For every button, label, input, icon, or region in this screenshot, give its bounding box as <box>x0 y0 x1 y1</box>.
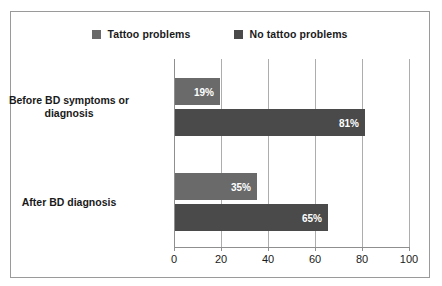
chart-frame: Tattoo problems No tattoo problems 19% 8… <box>10 11 430 278</box>
tick-mark-20 <box>221 247 222 251</box>
bar-after-tattoo-problems: 35% <box>175 173 257 200</box>
tick-mark-60 <box>315 247 316 251</box>
legend-swatch-icon <box>92 30 101 39</box>
x-tick-label-80: 80 <box>342 253 382 265</box>
category-label-before-line1: Before BD symptoms or <box>0 94 154 107</box>
category-label-before: Before BD symptoms or diagnosis <box>0 94 154 120</box>
legend-item-tattoo-problems: Tattoo problems <box>92 28 190 40</box>
bar-after-no-tattoo-problems: 65% <box>175 204 328 231</box>
bar-value-label: 81% <box>339 117 359 128</box>
category-label-before-line2: diagnosis <box>0 107 154 120</box>
category-label-after: After BD diagnosis <box>0 196 154 209</box>
chart-legend: Tattoo problems No tattoo problems <box>11 28 429 40</box>
plot-area: 19% 81% 35% 65% <box>174 59 409 247</box>
legend-label-no-tattoo-problems: No tattoo problems <box>249 28 347 40</box>
x-tick-label-20: 20 <box>201 253 241 265</box>
axis-line-x <box>174 247 410 248</box>
gridline-80 <box>362 59 363 247</box>
x-tick-label-0: 0 <box>154 253 194 265</box>
tick-mark-100 <box>409 247 410 251</box>
legend-label-tattoo-problems: Tattoo problems <box>107 28 190 40</box>
legend-item-no-tattoo-problems: No tattoo problems <box>234 28 347 40</box>
x-tick-label-40: 40 <box>248 253 288 265</box>
tick-mark-0 <box>174 247 175 251</box>
x-tick-label-60: 60 <box>295 253 335 265</box>
tick-mark-40 <box>268 247 269 251</box>
bar-value-label: 65% <box>302 212 322 223</box>
gridline-100 <box>409 59 410 247</box>
legend-swatch-icon <box>234 30 243 39</box>
bar-value-label: 19% <box>194 86 214 97</box>
bar-before-tattoo-problems: 19% <box>175 78 220 105</box>
x-tick-label-100: 100 <box>389 253 429 265</box>
bar-value-label: 35% <box>231 181 251 192</box>
tick-mark-80 <box>362 247 363 251</box>
bar-before-no-tattoo-problems: 81% <box>175 109 365 136</box>
